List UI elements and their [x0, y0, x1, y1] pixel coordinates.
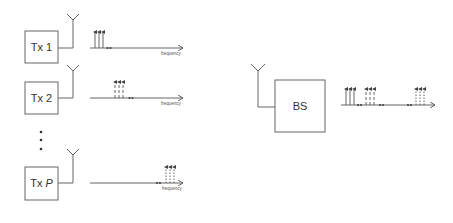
tx2-frequency-label: frequency: [161, 101, 182, 106]
tx2-label: Tx 2: [31, 92, 52, 104]
tx1-spectrum: [90, 32, 183, 49]
bs-label: BS: [293, 100, 308, 112]
ellipsis-dots: [40, 131, 43, 151]
base-station: BS: [251, 64, 435, 132]
tx1-label: Tx 1: [31, 41, 52, 53]
diagram-canvas: Tx 1 frequency Tx 2 f: [0, 0, 453, 223]
txP-label: Tx P: [30, 177, 53, 189]
antenna-icon: [58, 14, 79, 48]
transmitter-tx2: Tx 2 frequency: [25, 65, 183, 114]
txP-frequency-label: frequency: [162, 186, 183, 191]
txP-spectrum: [90, 167, 183, 184]
tx2-spectrum: [90, 82, 183, 99]
antenna-icon: [251, 64, 275, 107]
transmitter-tx1: Tx 1 frequency: [25, 14, 183, 63]
transmitter-txP: Tx P frequency: [25, 149, 183, 200]
antenna-icon: [58, 65, 79, 98]
tx1-frequency-label: frequency: [161, 51, 182, 56]
antenna-icon: [58, 149, 79, 183]
bs-spectrum: [341, 89, 435, 106]
